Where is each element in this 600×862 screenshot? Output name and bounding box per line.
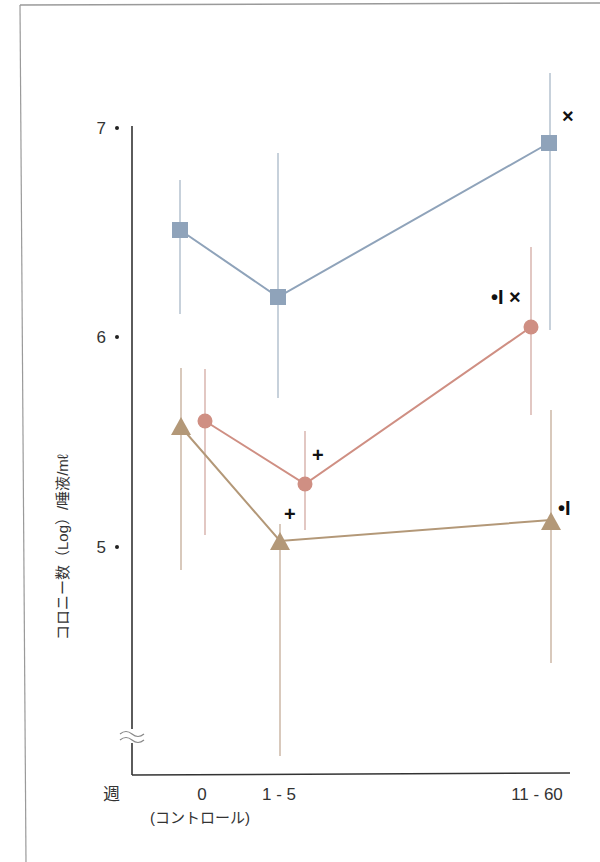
significance-mark: •I × [491, 286, 521, 308]
y-axis-label: コロニー数（Log）/唾液/mℓ [54, 454, 71, 640]
square-marker [541, 135, 557, 151]
x-tick-0-sub: (コントロール) [150, 809, 250, 826]
x-axis-title: 週 [103, 785, 120, 804]
x-tick-1: 1 - 5 [262, 785, 296, 804]
significance-mark: •I [558, 497, 571, 519]
circle-marker [524, 320, 539, 335]
significance-mark: + [312, 444, 324, 466]
significance-mark: + [284, 503, 296, 525]
x-tick-0: 0 [197, 785, 206, 804]
series-circle [198, 247, 539, 535]
frame-top-border [20, 3, 600, 5]
y-tick-6: 6 [97, 328, 119, 347]
y-tick-7: 7 [97, 119, 119, 138]
frame-left-border [20, 5, 26, 862]
triangle-marker [171, 417, 191, 435]
svg-text:6: 6 [97, 328, 106, 347]
square-marker [270, 289, 286, 305]
circle-marker [198, 414, 213, 429]
y-tick-5: 5 [97, 538, 119, 557]
svg-text:5: 5 [97, 538, 106, 557]
svg-text:7: 7 [97, 119, 106, 138]
axis-break-icon [118, 729, 148, 743]
chart-figure: 7 6 5 コロニー数（Log）/唾液/mℓ 週 0 (コントロール) 1 - … [0, 0, 600, 862]
significance-mark: × [562, 105, 574, 127]
square-marker [172, 222, 188, 238]
x-tick-2: 11 - 60 [511, 785, 563, 804]
series-triangle [171, 368, 561, 756]
x-axis [132, 773, 570, 775]
circle-marker [298, 477, 313, 492]
